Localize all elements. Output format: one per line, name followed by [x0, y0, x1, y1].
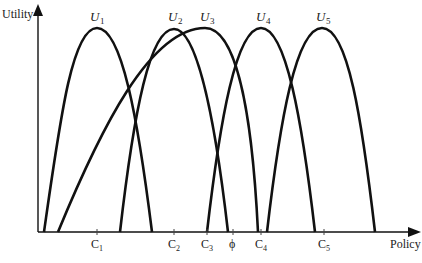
svg-text:1: 1: [100, 16, 105, 26]
svg-text:5: 5: [326, 244, 330, 253]
utility-curve-u1: [44, 28, 152, 232]
svg-text:C: C: [255, 237, 263, 251]
x-axis-arrow-icon: [408, 227, 421, 237]
svg-text:C: C: [168, 237, 176, 251]
svg-text:4: 4: [266, 16, 271, 26]
x-axis-label: Policy: [390, 237, 421, 251]
svg-text:C: C: [318, 237, 326, 251]
tick-label-c4: C 4: [255, 237, 267, 253]
svg-text:2: 2: [176, 244, 180, 253]
curve-label-u5: U 5: [316, 9, 331, 26]
curve-label-u4: U 4: [256, 9, 271, 26]
tick-label-phi: ϕ: [229, 237, 235, 251]
curve-label-u3: U 3: [200, 9, 215, 26]
svg-text:1: 1: [99, 244, 103, 253]
svg-text:4: 4: [263, 244, 267, 253]
svg-text:3: 3: [209, 244, 213, 253]
svg-text:5: 5: [326, 16, 331, 26]
y-axis-label: Utility: [2, 7, 33, 21]
svg-text:3: 3: [210, 16, 215, 26]
curve-label-u1: U 1: [90, 9, 105, 26]
svg-text:ϕ: ϕ: [229, 237, 235, 251]
tick-label-c2: C 2: [168, 237, 180, 253]
tick-label-c1: C 1: [91, 237, 103, 253]
utility-policy-diagram: Utility Policy U 1 U 2 U 3 U 4 U 5 C 1 C…: [0, 0, 422, 263]
utility-curve-u3: [58, 28, 258, 232]
tick-label-c5: C 5: [318, 237, 330, 253]
svg-text:C: C: [201, 237, 209, 251]
tick-label-c3: C 3: [201, 237, 213, 253]
svg-text:2: 2: [178, 16, 183, 26]
curve-label-u2: U 2: [168, 9, 183, 26]
svg-text:C: C: [91, 237, 99, 251]
y-axis-arrow-icon: [33, 4, 43, 16]
